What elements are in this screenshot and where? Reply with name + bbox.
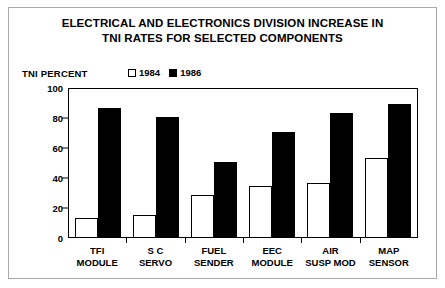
x-axis-category-label-line: MAP bbox=[360, 245, 418, 257]
x-axis-category-label-line: SENDER bbox=[185, 257, 243, 269]
x-axis-category-label-line: EEC bbox=[243, 245, 301, 257]
x-axis-category-label: TFIMODULE bbox=[68, 245, 126, 269]
x-axis-tick bbox=[126, 238, 127, 243]
bar-1984 bbox=[307, 183, 330, 237]
bar-group bbox=[191, 89, 237, 237]
bar-1984 bbox=[133, 215, 156, 238]
bar-groups bbox=[69, 89, 417, 237]
bar-1986 bbox=[388, 104, 411, 238]
bar-1984 bbox=[75, 218, 98, 238]
x-axis-category-label-line: SERVO bbox=[126, 257, 184, 269]
x-axis-tick bbox=[185, 238, 186, 243]
legend-item-1986: 1986 bbox=[169, 67, 201, 78]
x-axis-category-label-line: TFI bbox=[68, 245, 126, 257]
legend-swatch-hollow-square-icon bbox=[128, 69, 136, 77]
bar-group bbox=[307, 89, 353, 237]
y-axis-tick-label: 100 bbox=[47, 83, 63, 94]
x-axis-category-label-line: FUEL bbox=[185, 245, 243, 257]
chart-title-line-2: TNI RATES FOR SELECTED COMPONENTS bbox=[18, 31, 427, 46]
x-axis-category-label-line: MODULE bbox=[68, 257, 126, 269]
plot-area bbox=[68, 88, 418, 238]
x-axis-tick bbox=[301, 238, 302, 243]
x-axis-category-label: AIRSUSP MOD bbox=[301, 245, 359, 269]
bar-1986 bbox=[330, 113, 353, 238]
y-axis-caption: TNI PERCENT bbox=[22, 68, 88, 79]
chart-figure: ELECTRICAL AND ELECTRONICS DIVISION INCR… bbox=[0, 0, 445, 288]
y-axis-tick-labels: 020406080100 bbox=[38, 88, 63, 238]
x-axis-category-label: EECMODULE bbox=[243, 245, 301, 269]
x-axis-tick bbox=[360, 238, 361, 243]
x-axis-category-label-line: AIR bbox=[301, 245, 359, 257]
bar-group bbox=[365, 89, 411, 237]
legend-label-1984: 1984 bbox=[139, 67, 160, 78]
x-axis-category-label-line: S C bbox=[126, 245, 184, 257]
chart-title: ELECTRICAL AND ELECTRONICS DIVISION INCR… bbox=[18, 16, 427, 46]
bar-1986 bbox=[156, 117, 179, 237]
bar-1986 bbox=[272, 132, 295, 237]
x-axis-category-label-line: SENSOR bbox=[360, 257, 418, 269]
bar-1984 bbox=[365, 158, 388, 238]
x-axis-tick-labels: TFIMODULES CSERVOFUELSENDEREECMODULEAIRS… bbox=[68, 245, 418, 269]
bar-group bbox=[249, 89, 295, 237]
bar-1986 bbox=[214, 162, 237, 237]
bar-1984 bbox=[191, 195, 214, 237]
legend-item-1984: 1984 bbox=[128, 67, 160, 78]
bar-group bbox=[75, 89, 121, 237]
x-axis-category-label: S CSERVO bbox=[126, 245, 184, 269]
x-axis-category-label-line: MODULE bbox=[243, 257, 301, 269]
x-axis-category-label-line: SUSP MOD bbox=[301, 257, 359, 269]
chart-legend: 1984 1986 bbox=[128, 67, 201, 78]
x-axis-ticks bbox=[68, 238, 418, 243]
bar-1986 bbox=[98, 108, 121, 237]
legend-swatch-filled-square-icon bbox=[169, 69, 177, 77]
chart-title-line-1: ELECTRICAL AND ELECTRONICS DIVISION INCR… bbox=[18, 16, 427, 31]
x-axis-tick bbox=[243, 238, 244, 243]
bar-1984 bbox=[249, 186, 272, 237]
legend-label-1986: 1986 bbox=[180, 67, 201, 78]
x-axis-category-label: FUELSENDER bbox=[185, 245, 243, 269]
bar-group bbox=[133, 89, 179, 237]
x-axis-category-label: MAPSENSOR bbox=[360, 245, 418, 269]
